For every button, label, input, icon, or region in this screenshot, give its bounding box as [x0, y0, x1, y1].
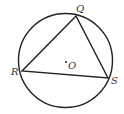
geometry-diagram: Q R S O [0, 0, 124, 114]
label-o-center: O [68, 60, 76, 71]
label-q: Q [76, 3, 84, 14]
label-s: S [111, 75, 118, 86]
center-dot [65, 61, 67, 63]
label-r: R [10, 66, 19, 77]
